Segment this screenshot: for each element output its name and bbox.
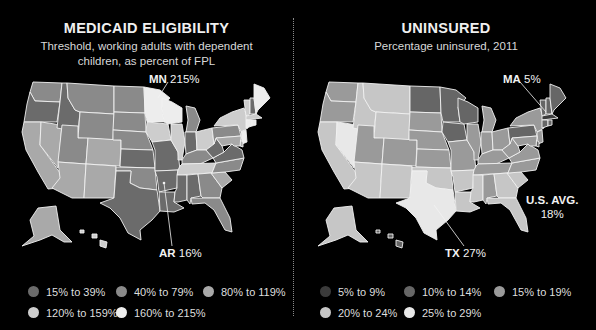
legend-label: 20% to 24% [338,307,397,319]
callout-mn: MN 215% [149,73,200,85]
callout-tx: TX 27% [445,247,486,259]
legend-swatch [28,286,39,297]
state-mi [186,106,200,132]
medicaid-map [0,70,300,270]
legend-label: 40% to 79% [134,286,193,298]
state-ia [146,122,171,142]
state-ri [252,120,256,126]
legend-item: 160% to 215% [116,306,206,320]
state-wa [326,82,358,102]
legend-label: 160% to 215% [134,307,206,319]
state-nm [380,164,412,198]
state-hi [376,230,403,248]
state-fl [191,198,232,232]
subtitle-line-1: Threshold, working adults with dependent [0,39,293,54]
legend-swatch [320,307,331,318]
legend-item: 20% to 24% [320,306,397,320]
state-fl [487,198,528,232]
legend-swatch [494,286,505,297]
callout-ar: AR 16% [159,247,202,259]
callout-state: MN [149,73,167,85]
state-ak [318,206,368,246]
callout-ma: MA 5% [503,73,541,85]
legend-item: 80% to 119% [203,285,286,299]
legend-item: 5% to 9% [320,285,385,299]
callout-value: 16% [179,247,202,259]
callout-value: 18% [541,208,564,220]
legend-label: 120% to 159% [46,307,118,319]
state-wi [458,98,478,124]
legend-swatch [28,307,39,318]
state-wi [162,98,182,124]
state-ct [542,120,548,128]
uninsured-panel: UNINSURED Percentage uninsured, 2011 MA … [296,0,596,330]
state-ar [451,170,474,192]
legend-label: 15% to 19% [512,286,571,298]
panel-divider [293,18,294,316]
legend-swatch [404,307,415,318]
legend-item: 120% to 159% [28,306,118,320]
legend-swatch [203,286,214,297]
subtitle-line-2: children, as percent of FPL [0,54,293,69]
callout-value: 5% [524,73,541,85]
state-nd [114,86,145,113]
state-mi [482,106,496,132]
panel-title: UNINSURED [296,20,596,36]
panel-subtitle: Threshold, working adults with dependent… [0,39,293,69]
legend-item: 25% to 29% [404,306,481,320]
state-ia [442,122,467,142]
panel-subtitle: Percentage uninsured, 2011 [296,39,596,54]
state-ri [548,120,552,126]
callout-state: U.S. AVG. [526,194,578,206]
callout-state: TX [445,247,460,259]
callout-value: 215% [170,73,199,85]
legend-label: 25% to 29% [422,307,481,319]
state-me [550,84,566,114]
state-hi [80,230,107,248]
legend-label: 15% to 39% [46,286,105,298]
state-ak [22,206,72,246]
state-sd [113,112,146,132]
legend-item: 40% to 79% [116,285,193,299]
subtitle-line-1: Percentage uninsured, 2011 [296,39,596,54]
legend-label: 5% to 9% [338,286,385,298]
legend-label: 10% to 14% [422,286,481,298]
state-co [86,138,121,166]
state-co [382,138,417,166]
legend-swatch [404,286,415,297]
legend-item: 15% to 19% [494,285,571,299]
medicaid-eligibility-panel: MEDICAID ELIGIBILITY Threshold, working … [0,0,293,330]
callout-state: AR [159,247,176,259]
state-nm [84,164,116,198]
legend-item: 10% to 14% [404,285,481,299]
state-wy [78,112,114,140]
legend-label: 80% to 119% [221,286,286,298]
state-nd [410,86,441,113]
legend-item: 15% to 39% [28,285,105,299]
legend-swatch [320,286,331,297]
panel-title: MEDICAID ELIGIBILITY [0,20,293,36]
legend-swatch [116,307,127,318]
state-sd [409,112,442,132]
callout-value: 27% [463,247,486,259]
state-ks [416,149,451,168]
state-ks [120,149,155,168]
state-ar [155,170,178,192]
uninsured-map [296,70,596,270]
state-me [254,84,270,114]
callout-us-avg: U.S. AVG.18% [526,193,578,221]
state-wy [374,112,410,140]
legend-swatch [116,286,127,297]
callout-state: MA [503,73,521,85]
state-ct [246,120,252,128]
state-wa [30,82,62,102]
